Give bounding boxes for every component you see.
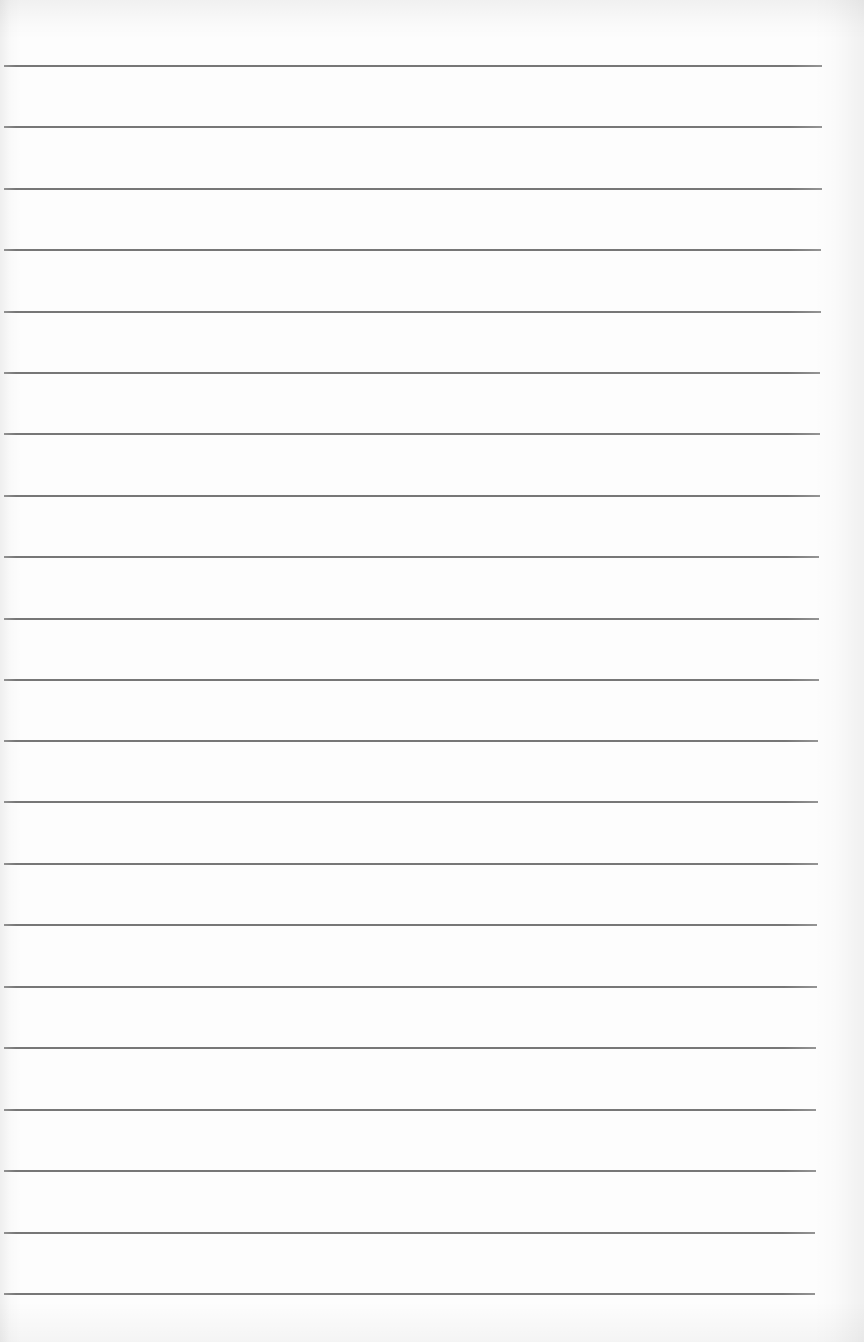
ruled-line [4, 1293, 815, 1295]
ruled-line [4, 372, 820, 374]
ruled-line [4, 126, 822, 128]
ruled-line [4, 863, 818, 865]
lined-paper-page [0, 0, 864, 1342]
ruled-line [4, 1047, 816, 1049]
ruled-line [4, 495, 820, 497]
ruled-line [4, 188, 822, 190]
ruled-line [4, 311, 821, 313]
ruled-line [4, 924, 817, 926]
ruled-line [4, 801, 818, 803]
ruled-line [4, 433, 820, 435]
ruled-line [4, 1232, 815, 1234]
ruled-line [4, 740, 818, 742]
ruled-line [4, 65, 822, 67]
ruled-line [4, 1109, 816, 1111]
ruled-line [4, 679, 819, 681]
ruled-line [4, 1170, 816, 1172]
ruled-line [4, 986, 817, 988]
ruled-line [4, 618, 819, 620]
ruled-line [4, 249, 821, 251]
ruled-line [4, 556, 819, 558]
